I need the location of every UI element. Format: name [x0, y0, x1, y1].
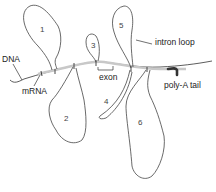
exon-label: exon — [99, 72, 118, 82]
loop-number-2: 2 — [64, 114, 69, 123]
poly-a-tail — [168, 68, 177, 75]
exon-bracket — [98, 66, 113, 70]
loop-number-1: 1 — [40, 25, 45, 34]
loop-number-6: 6 — [138, 118, 143, 127]
intron-loop-6 — [126, 70, 164, 178]
poly-a-tail-label: poly-A tail — [164, 80, 201, 90]
loop-number-5: 5 — [119, 21, 124, 30]
intron-loop-2 — [49, 67, 86, 143]
rloop-diagram: DNA mRNA exon intron loop poly-A tail 1 … — [0, 0, 216, 192]
mrna-label: mRNA — [22, 86, 47, 96]
intron-loop-label: intron loop — [155, 37, 195, 47]
intron-loop-leader — [136, 40, 152, 44]
mrna-leader — [34, 75, 40, 86]
intron-loop-1 — [24, 5, 61, 70]
dna-label: DNA — [2, 54, 20, 64]
intron-loop-5 — [112, 6, 133, 68]
loop-number-3: 3 — [91, 41, 96, 50]
dna-leader — [13, 64, 22, 80]
loop-number-4: 4 — [104, 97, 109, 106]
